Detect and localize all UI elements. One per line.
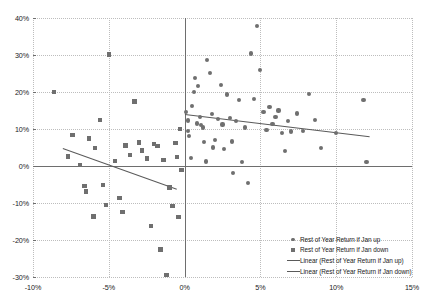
data-point — [270, 122, 274, 126]
data-point — [195, 121, 199, 125]
data-point — [319, 146, 323, 150]
data-point — [364, 160, 368, 164]
data-point — [132, 99, 136, 103]
legend-item: Rest of Year Return if Jan down — [286, 245, 436, 256]
x-axis-tick-label: -5% — [103, 283, 115, 292]
data-point — [202, 140, 206, 144]
y-axis-zero-line — [185, 18, 186, 277]
data-point — [234, 119, 238, 123]
data-point — [164, 273, 168, 277]
legend-label: Linear (Rest of Year Return if Jan up) — [300, 257, 404, 264]
data-point — [213, 138, 217, 142]
data-point — [273, 115, 277, 119]
y-axis-tick — [33, 18, 36, 19]
data-point — [52, 90, 56, 94]
data-point — [307, 92, 311, 96]
data-point — [286, 119, 290, 123]
data-point — [225, 92, 229, 96]
data-point — [173, 141, 177, 145]
x-axis-zero-line — [33, 166, 412, 167]
data-point — [280, 131, 284, 135]
data-point — [295, 111, 299, 115]
data-point — [186, 129, 190, 133]
data-point — [361, 98, 365, 102]
scatter-chart: 40%30%20%10%0%-10%-20%-30% -10%-5%0%5%10… — [0, 0, 438, 298]
legend-label: Rest of Year Return if Jan down — [300, 246, 388, 253]
data-point — [255, 24, 259, 28]
y-axis-tick — [33, 203, 36, 204]
data-point — [240, 160, 244, 164]
data-point — [243, 125, 247, 129]
data-point — [267, 105, 271, 109]
data-point — [198, 115, 202, 119]
legend-label: Linear (Rest of Year Return if Jan down) — [300, 268, 412, 275]
legend-marker-square-icon — [286, 248, 300, 252]
data-point — [258, 68, 262, 72]
data-point — [205, 58, 209, 62]
data-point — [187, 134, 191, 138]
data-point — [117, 196, 121, 200]
y-axis-tick-label: 30% — [15, 51, 29, 60]
data-point — [107, 52, 111, 56]
gridline-horizontal — [33, 92, 412, 93]
data-point — [91, 214, 95, 218]
data-point — [252, 97, 256, 101]
legend-item: Linear (Rest of Year Return if Jan down) — [286, 266, 436, 277]
gridline-horizontal — [33, 277, 412, 278]
data-point — [167, 185, 171, 189]
y-axis-tick-label: 40% — [15, 14, 29, 23]
legend-marker-glyph — [287, 260, 300, 261]
legend-item: Rest of Year Return if Jan up — [286, 234, 436, 245]
data-point — [210, 112, 214, 116]
y-axis-tick — [33, 166, 36, 167]
data-point — [179, 168, 183, 172]
data-point — [70, 133, 74, 137]
y-axis-tick-label: 0% — [19, 162, 29, 171]
data-point — [84, 189, 88, 193]
data-point — [313, 118, 317, 122]
legend-marker-line-icon — [286, 260, 300, 261]
y-axis-tick — [33, 92, 36, 93]
data-point — [170, 204, 174, 208]
x-axis-labels: -10%-5%0%5%10%15% — [33, 279, 412, 295]
y-axis-tick-label: -10% — [13, 199, 29, 208]
data-point — [208, 71, 212, 75]
data-point — [231, 171, 235, 175]
legend-marker-glyph — [287, 271, 300, 272]
data-point — [301, 129, 305, 133]
x-axis-tick-label: -10% — [25, 283, 41, 292]
gridline-horizontal — [33, 129, 412, 130]
data-point — [120, 210, 124, 214]
data-point — [113, 159, 117, 163]
data-point — [283, 149, 287, 153]
data-point — [149, 224, 153, 228]
data-point — [161, 158, 165, 162]
legend-label: Rest of Year Return if Jan up — [300, 236, 380, 243]
data-point — [93, 146, 97, 150]
data-point — [140, 148, 144, 152]
legend-marker-glyph — [291, 248, 295, 252]
y-axis-tick-label: 10% — [15, 125, 29, 134]
data-point — [186, 118, 190, 122]
data-point — [204, 159, 208, 163]
data-point — [128, 153, 132, 157]
data-point — [98, 118, 102, 122]
gridline-horizontal — [33, 18, 412, 19]
data-point — [201, 125, 205, 129]
chart-legend: Rest of Year Return if Jan upRest of Yea… — [286, 234, 436, 276]
data-point — [66, 154, 70, 158]
gridline-vertical — [33, 18, 34, 277]
data-point — [193, 76, 197, 80]
data-point — [222, 147, 226, 151]
y-axis-tick-label: 20% — [15, 88, 29, 97]
y-axis-tick — [33, 129, 36, 130]
legend-marker-glyph — [291, 238, 295, 242]
gridline-horizontal — [33, 55, 412, 56]
data-point — [104, 203, 108, 207]
data-point — [82, 184, 86, 188]
data-point — [175, 155, 179, 159]
y-axis-tick-label: -20% — [13, 236, 29, 245]
data-point — [87, 136, 91, 140]
data-point — [237, 98, 241, 102]
data-point — [189, 156, 193, 160]
